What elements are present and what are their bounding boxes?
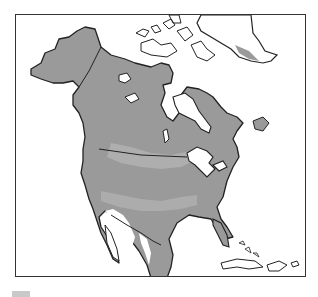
north-america-map xyxy=(16,15,306,277)
hispaniola xyxy=(267,261,287,271)
baja-california xyxy=(105,225,119,261)
florida xyxy=(213,219,229,247)
bahamas xyxy=(239,241,259,257)
cuba xyxy=(221,259,263,269)
puerto-rico xyxy=(291,261,299,267)
map-frame xyxy=(15,14,306,277)
newfoundland xyxy=(253,117,269,131)
legend-swatch xyxy=(12,291,30,297)
